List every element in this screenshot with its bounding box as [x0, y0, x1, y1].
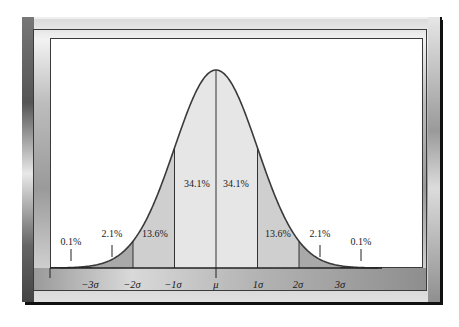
label-thirteen-left: 13.6% [142, 228, 168, 239]
tick-label-mu: μ [212, 279, 218, 290]
tick-label-pos3-sigma: 3σ [334, 279, 346, 290]
normal-distribution-chart: 0.1% 2.1% 13.6% 34.1% 34.1% 13.6% 2.1% 0… [0, 0, 459, 327]
tick-label-neg3-sigma: −3σ [81, 279, 99, 290]
label-two-left: 2.1% [102, 228, 123, 239]
tick-label-neg2-sigma: −2σ [123, 279, 141, 290]
tick-label-neg1-sigma: −1σ [164, 279, 182, 290]
tick-label-pos2-sigma: 2σ [293, 279, 304, 290]
tick-label-pos1-sigma: 1σ [253, 279, 264, 290]
region-fill [175, 70, 217, 268]
label-tail-right: 0.1% [351, 236, 372, 247]
region-fill [216, 70, 258, 268]
label-thirteen-right: 13.6% [265, 228, 291, 239]
label-two-right: 2.1% [310, 228, 331, 239]
label-center-right: 34.1% [223, 178, 249, 189]
label-tail-left: 0.1% [61, 236, 82, 247]
label-center-left: 34.1% [184, 178, 210, 189]
